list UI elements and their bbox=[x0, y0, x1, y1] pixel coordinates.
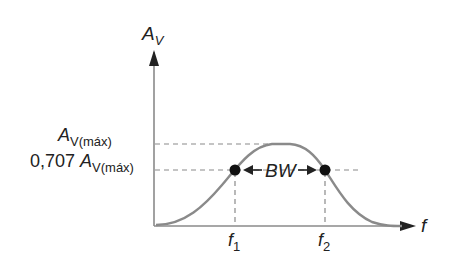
response-curve bbox=[156, 144, 402, 226]
arrow-left-icon bbox=[243, 165, 253, 175]
f1-label: f1 bbox=[228, 230, 240, 254]
f2-label: f2 bbox=[318, 230, 330, 254]
x-axis-label: f bbox=[421, 215, 428, 236]
f2-point bbox=[320, 165, 331, 176]
reference-lines bbox=[155, 144, 362, 226]
f1-point bbox=[230, 165, 241, 176]
arrow-right-icon bbox=[307, 165, 317, 175]
y-axis bbox=[149, 50, 159, 226]
x-axis-arrow-icon bbox=[400, 221, 416, 231]
max-level-label: AV(máx) bbox=[57, 125, 112, 149]
y-axis-label: AV bbox=[141, 23, 165, 48]
y-axis-arrow-icon bbox=[149, 50, 159, 66]
bandwidth-label: BW bbox=[265, 160, 298, 181]
half-power-label: 0,707 AV(máx) bbox=[30, 151, 134, 175]
frequency-response-diagram: AV AV(máx) 0,707 AV(máx) BW f1 f2 f bbox=[0, 0, 449, 271]
